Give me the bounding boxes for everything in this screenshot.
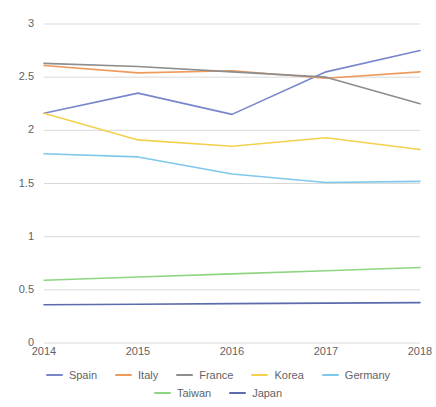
legend-label: Korea	[274, 369, 303, 381]
series-line-japan	[44, 303, 420, 305]
legend-label: Germany	[345, 369, 390, 381]
plot-svg	[0, 0, 436, 356]
legend-item-spain[interactable]: Spain	[46, 369, 97, 381]
x-axis-tick-label: 2014	[14, 345, 74, 357]
series-lines	[44, 51, 420, 305]
legend-label: Japan	[252, 387, 282, 399]
legend-swatch-icon	[176, 374, 193, 376]
y-axis-tick-label: 1	[0, 231, 34, 242]
y-axis-tick-label: 2	[0, 124, 34, 135]
legend-row-secondary: TaiwanJapan	[0, 384, 436, 402]
legend-row-primary: SpainItalyFranceKoreaGermany	[0, 366, 436, 384]
legend-item-japan[interactable]: Japan	[229, 387, 282, 399]
series-line-korea	[44, 113, 420, 149]
legend-item-korea[interactable]: Korea	[251, 369, 303, 381]
legend-item-germany[interactable]: Germany	[322, 369, 390, 381]
legend-item-taiwan[interactable]: Taiwan	[154, 387, 211, 399]
legend-label: France	[199, 369, 233, 381]
legend-swatch-icon	[229, 392, 246, 394]
legend-swatch-icon	[322, 374, 339, 376]
y-axis-tick-label: 1.5	[0, 178, 34, 189]
chart-legend: SpainItalyFranceKoreaGermany TaiwanJapan	[0, 366, 436, 407]
y-axis-tick-label: 0.5	[0, 284, 34, 295]
line-chart: 00.511.522.53 20142015201620172018 Spain…	[0, 0, 436, 407]
x-axis-tick-label: 2015	[108, 345, 168, 357]
legend-item-france[interactable]: France	[176, 369, 233, 381]
x-axis-tick-label: 2016	[202, 345, 262, 357]
series-line-taiwan	[44, 268, 420, 281]
legend-label: Taiwan	[177, 387, 211, 399]
legend-swatch-icon	[46, 374, 63, 376]
y-axis-tick-label: 2.5	[0, 71, 34, 82]
legend-swatch-icon	[154, 392, 171, 394]
series-line-spain	[44, 51, 420, 115]
x-axis-tick-label: 2017	[296, 345, 356, 357]
legend-swatch-icon	[115, 374, 132, 376]
legend-label: Italy	[138, 369, 158, 381]
legend-label: Spain	[69, 369, 97, 381]
plot-area: 00.511.522.53 20142015201620172018	[0, 0, 436, 356]
legend-swatch-icon	[251, 374, 268, 376]
x-axis-tick-label: 2018	[390, 345, 436, 357]
y-axis-tick-label: 3	[0, 18, 34, 29]
series-line-germany	[44, 154, 420, 183]
legend-item-italy[interactable]: Italy	[115, 369, 158, 381]
